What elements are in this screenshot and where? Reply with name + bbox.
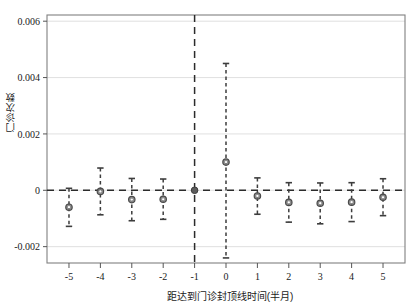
x-tick-label: 3 <box>318 271 323 282</box>
y-axis-title: 门诊次数 <box>4 92 18 132</box>
plot-canvas: 0.0060.0040.0020-0.002-5-4-3-2-1012345 <box>0 0 420 307</box>
data-point-center <box>225 161 227 163</box>
data-point-center <box>319 202 321 204</box>
x-tick-label: 0 <box>224 271 229 282</box>
data-point-center <box>131 198 133 200</box>
y-tick-label: 0.006 <box>18 16 41 27</box>
x-tick-label: -2 <box>159 271 167 282</box>
x-tick-label: 1 <box>255 271 260 282</box>
data-point-reference[interactable] <box>191 187 198 194</box>
data-point-center <box>350 201 352 203</box>
data-point-center <box>162 198 164 200</box>
y-tick-label: 0 <box>35 185 40 196</box>
data-point-center <box>68 206 70 208</box>
data-point-center <box>288 201 290 203</box>
x-tick-label: -5 <box>65 271 73 282</box>
event-study-chart: 门诊次数 距达到门诊封顶线时间(半月) 0.0060.0040.0020-0.0… <box>0 0 420 307</box>
data-point-center <box>382 196 384 198</box>
data-point-center <box>99 190 101 192</box>
y-tick-label: -0.002 <box>14 241 40 252</box>
x-tick-label: 2 <box>286 271 291 282</box>
data-point-center <box>256 195 258 197</box>
x-tick-label: -3 <box>128 271 136 282</box>
y-tick-label: 0.004 <box>18 72 41 83</box>
y-tick-label: 0.002 <box>18 129 41 140</box>
x-axis-title: 距达到门诊封顶线时间(半月) <box>140 288 320 303</box>
x-tick-label: 5 <box>381 271 386 282</box>
x-tick-label: -1 <box>190 271 198 282</box>
x-tick-label: 4 <box>349 271 354 282</box>
x-tick-label: -4 <box>96 271 104 282</box>
plot-frame <box>47 15 405 263</box>
